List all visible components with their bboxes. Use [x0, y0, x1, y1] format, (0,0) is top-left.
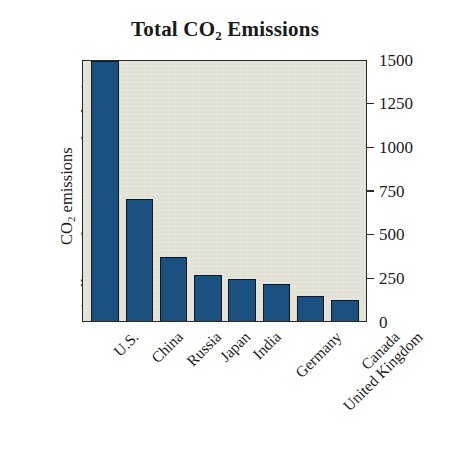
tick-mark	[367, 278, 374, 280]
x-axis-tick-label-text: China	[148, 328, 187, 367]
x-axis-tick-label: India	[250, 328, 285, 363]
bar-slot	[88, 61, 122, 321]
x-axis-tick-label-text: U.S.	[110, 328, 142, 360]
tick-mark	[367, 234, 374, 236]
chart-title-pre: Total CO	[131, 17, 215, 41]
bar-series	[83, 61, 366, 321]
y-axis-tick-label: 250	[379, 270, 405, 287]
bar-slot	[259, 61, 293, 321]
x-axis-tick-label-text: Germany	[292, 328, 346, 382]
bar	[160, 257, 187, 321]
x-axis-tick-label-text: India	[250, 328, 285, 363]
y-axis-title-subscript: 2	[65, 217, 77, 223]
y-axis-title-line-1: CO2 emissions	[56, 41, 77, 351]
bar-slot	[225, 61, 259, 321]
x-axis-tick-label: China	[148, 328, 187, 367]
y-axis-tick-label: 1000	[379, 139, 413, 156]
bar-slot	[191, 61, 225, 321]
x-axis-labels: U.S.ChinaRussiaJapanIndiaGermanyUnited K…	[82, 322, 367, 452]
bar	[228, 279, 255, 321]
plot-area	[82, 60, 367, 322]
bar-slot	[328, 61, 362, 321]
y-axis-tick-label: 1250	[379, 95, 413, 112]
bar	[194, 275, 221, 321]
bar-slot	[122, 61, 156, 321]
y-axis-tick-label: 500	[379, 226, 405, 243]
bar	[297, 296, 324, 321]
tick-mark	[367, 321, 374, 323]
chart-figure: Total CO2 Emissions CO2 emissions (milli…	[0, 0, 450, 465]
y-axis-tick-label: 1500	[379, 52, 413, 69]
bar	[331, 300, 358, 321]
tick-mark	[367, 103, 374, 105]
bar	[91, 61, 118, 321]
y-axis-tick-label: 750	[379, 183, 405, 200]
x-axis-tick-label-text: Japan	[216, 328, 254, 366]
chart-title: Total CO2 Emissions	[0, 17, 450, 42]
y-axis-tick-label: 0	[379, 314, 388, 331]
y-axis-ticks: 0250500750100012501500	[367, 60, 447, 322]
tick-mark	[367, 59, 374, 61]
x-axis-tick-label: Germany	[292, 328, 346, 382]
x-axis-tick-label: U.S.	[110, 328, 142, 360]
y-axis-title-line-1-pre: CO	[57, 222, 76, 245]
bar	[263, 284, 290, 321]
y-axis-title-line-1-post: emissions	[57, 147, 76, 216]
x-axis-tick-label: Japan	[216, 328, 254, 366]
tick-mark	[367, 147, 374, 149]
bar-slot	[294, 61, 328, 321]
bar	[126, 199, 153, 321]
bar-slot	[157, 61, 191, 321]
tick-mark	[367, 190, 374, 192]
chart-title-subscript: 2	[215, 28, 222, 43]
chart-title-post: Emissions	[222, 17, 319, 41]
